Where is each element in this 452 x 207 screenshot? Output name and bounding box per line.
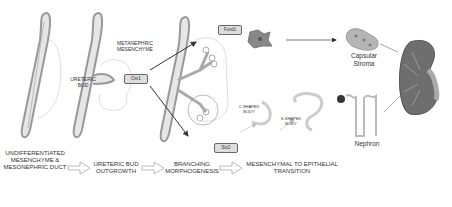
ureteric-bud-label: URETERIC BUD — [68, 76, 98, 88]
stage-4-label: MESENCHYMAL TO EPITHELIAL TRANSITION — [244, 161, 340, 175]
branching-stage — [161, 17, 228, 141]
gene-box-foxd1: Foxd1 — [218, 25, 242, 35]
metanephric-mesenchyme-label: METANEPHRIC MESENCHYME — [110, 40, 160, 52]
kidney-graphic — [400, 40, 438, 114]
gene-box-six2: Six2 — [214, 143, 238, 153]
stage-3-label: BRANCHING MORPHOGENESIS — [164, 161, 220, 175]
nephron-graphic — [337, 95, 376, 136]
nephron-label: Nephron — [352, 140, 382, 148]
mesonephric-duct-1 — [22, 13, 61, 137]
capsular-stroma-label: Capsular Stroma — [344, 52, 384, 68]
gene-box-osr1: Osr1 — [124, 74, 148, 84]
capsular-stroma-graphic — [346, 29, 378, 50]
s-shaped-body-label: S-SHAPED BODY — [278, 116, 304, 126]
stage-1-label: UNDIFFERENTIATED MESENCHYME & MESONEPHRI… — [2, 150, 68, 171]
stage-2-label: URETERIC BUD OUTGROWTH — [90, 161, 142, 175]
c-shaped-body-label: C-SHAPED BODY — [236, 104, 262, 114]
